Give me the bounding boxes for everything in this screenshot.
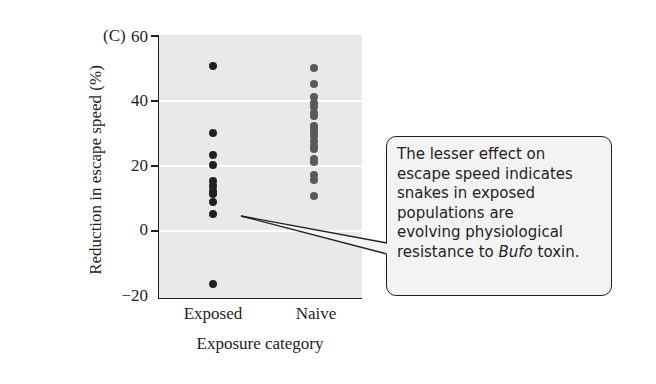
ytick-40: 40 [108, 91, 148, 111]
data-point-exposed [209, 161, 217, 169]
data-point-exposed [209, 198, 217, 206]
callout-line-2: escape speed indicates [397, 165, 601, 185]
ytick-20: 20 [108, 156, 148, 176]
data-point-naive [310, 192, 318, 200]
ytick-neg20: −20 [108, 286, 148, 306]
callout-line-6: resistance to Bufo toxin. [397, 243, 601, 263]
data-point-naive [310, 145, 318, 153]
callout-line-6-pre: resistance to [397, 243, 499, 261]
callout-line-3: snakes in exposed [397, 184, 601, 204]
data-point-naive [310, 64, 318, 72]
callout-line-1: The lesser effect on [397, 145, 601, 165]
gridline-0 [159, 230, 362, 232]
data-point-naive [310, 176, 318, 184]
ytick-mark-60 [151, 35, 159, 37]
ytick-60: 60 [108, 27, 148, 47]
callout-species-name: Bufo [499, 243, 533, 261]
gridline-40 [159, 100, 362, 102]
gridline-20 [159, 165, 362, 167]
x-axis-label: Exposure category [197, 334, 324, 354]
data-point-naive [310, 112, 318, 120]
ytick-0: 0 [108, 220, 148, 240]
ytick-mark-0 [151, 230, 159, 232]
callout-line-5: evolving physiological [397, 223, 601, 243]
data-point-naive [310, 80, 318, 88]
plot-area [158, 35, 362, 299]
data-point-exposed [209, 62, 217, 70]
annotation-callout: The lesser effect on escape speed indica… [386, 136, 612, 296]
callout-line-6-post: toxin. [533, 243, 580, 261]
data-point-exposed [209, 129, 217, 137]
callout-line-4: populations are [397, 204, 601, 224]
ytick-mark-20 [151, 165, 159, 167]
xtick-naive: Naive [296, 304, 337, 324]
data-point-exposed [209, 280, 217, 288]
data-point-exposed [209, 190, 217, 198]
ytick-mark-40 [151, 100, 159, 102]
data-point-exposed [209, 210, 217, 218]
data-point-naive [310, 158, 318, 166]
xtick-exposed: Exposed [184, 304, 243, 324]
y-axis-label: Reduction in escape speed (%) [86, 65, 106, 275]
data-point-exposed [209, 151, 217, 159]
